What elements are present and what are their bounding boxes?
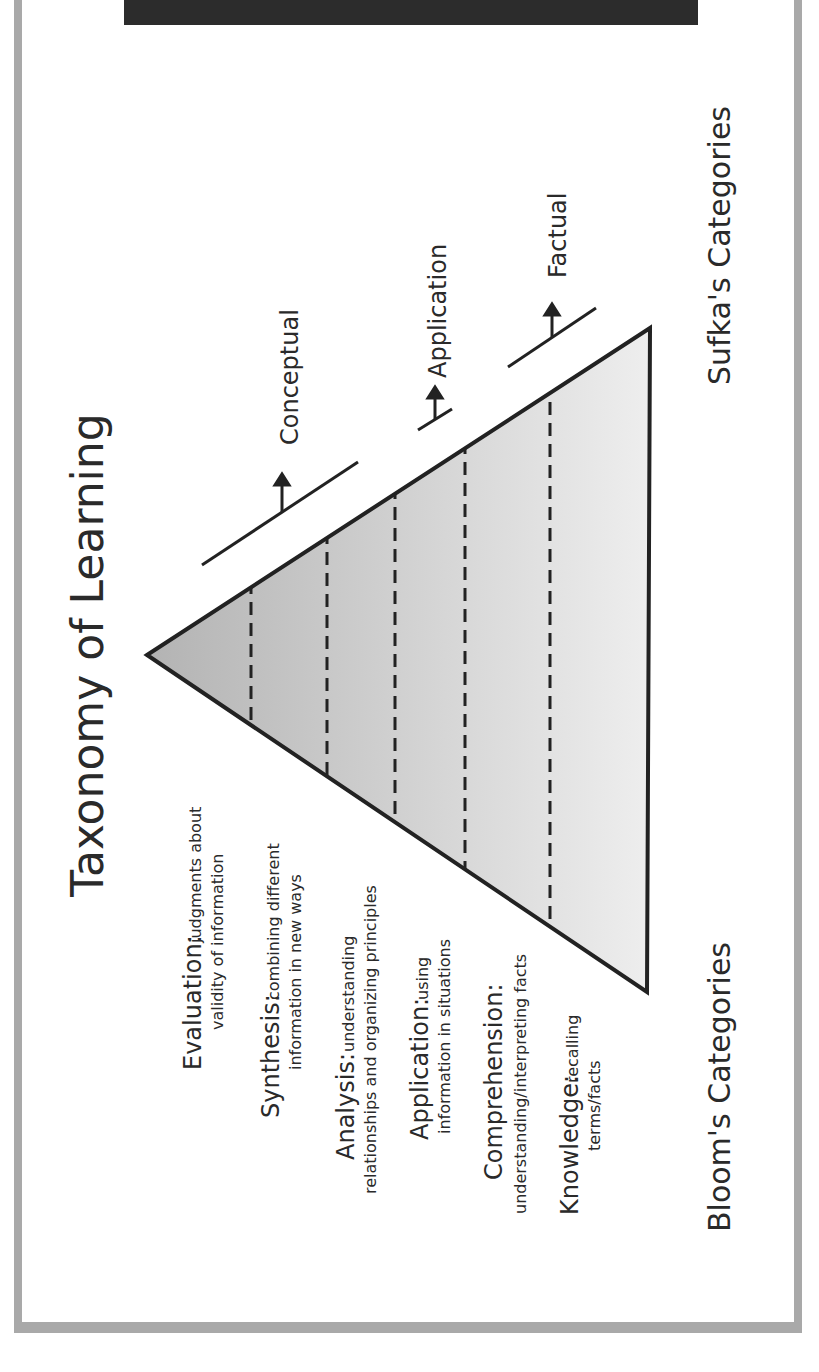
bloom-item-application: Application: using information in situat…	[406, 939, 454, 1140]
bloom-desc-2: terms/facts	[585, 1060, 604, 1151]
bloom-name: Analysis:	[332, 1053, 360, 1160]
taxonomy-diagram: Taxonomy of Learning Conceptual Applicat…	[0, 0, 819, 1372]
sufka-marker-factual	[508, 304, 596, 367]
bloom-item-knowledge: Knowledge: recalling terms/facts	[556, 1015, 604, 1215]
sufka-marker-application	[418, 387, 452, 430]
blooms-categories-label: Bloom's Categories	[702, 942, 737, 1232]
sufkas-categories-label: Sufka's Categories	[702, 106, 737, 385]
bloom-desc-2: understanding/interpreting facts	[511, 954, 530, 1214]
bloom-name: Evaluation:	[179, 935, 207, 1070]
bloom-desc-1: understanding	[339, 936, 358, 1052]
diagram-title: Taxonomy of Learning	[62, 413, 113, 897]
bloom-desc-2: relationships and organizing principles	[361, 885, 380, 1194]
bloom-name: Synthesis:	[257, 994, 285, 1118]
bloom-desc-2: validity of information	[208, 854, 227, 1030]
bloom-item-synthesis: Synthesis: combining different informati…	[257, 843, 305, 1118]
sufka-label-conceptual: Conceptual	[276, 309, 304, 445]
bloom-desc-1: using	[413, 957, 432, 1000]
bloom-item-evaluation: Evaluation: judgments about validity of …	[179, 807, 227, 1070]
bloom-name: Application:	[406, 998, 434, 1140]
sufka-label-factual: Factual	[544, 193, 572, 279]
bloom-name: Comprehension:	[480, 984, 508, 1181]
bloom-desc-1: recalling	[563, 1015, 582, 1083]
bloom-desc-1: combining different	[264, 843, 283, 1000]
sufka-label-application: Application	[424, 244, 452, 378]
bloom-desc-1: judgments about	[186, 807, 205, 944]
bloom-item-comprehension: Comprehension: understanding/interpretin…	[480, 954, 530, 1214]
bloom-desc-2: information in situations	[435, 939, 454, 1134]
bloom-item-analysis: Analysis: understanding relationships an…	[332, 885, 380, 1194]
bloom-desc-2: information in new ways	[286, 874, 305, 1070]
bloom-name: Knowledge:	[556, 1075, 584, 1215]
